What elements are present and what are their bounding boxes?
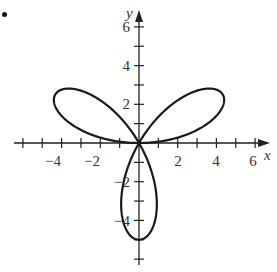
plot-area: −4 −2 2 4 6 6 4 2 −2 −4 x y — [0, 0, 277, 272]
y-tick-label: 2 — [123, 96, 131, 112]
x-tick-label: 4 — [212, 153, 220, 169]
x-tick-label: −4 — [45, 153, 61, 169]
x-axis-label: x — [263, 147, 271, 163]
polar-rose-chart: −4 −2 2 4 6 6 4 2 −2 −4 x y — [0, 0, 277, 272]
y-axis-arrow-icon — [135, 10, 143, 22]
y-tick-label: 6 — [123, 19, 131, 35]
y-axis-label: y — [124, 5, 133, 21]
x-tick-label: 2 — [174, 153, 182, 169]
x-axis-arrow-icon — [258, 139, 270, 147]
x-tick-label: 6 — [249, 153, 257, 169]
x-tick-label: −2 — [84, 153, 100, 169]
y-tick-label: 4 — [123, 58, 131, 74]
y-tick-label: −4 — [114, 213, 130, 229]
y-tick-label: −2 — [114, 174, 130, 190]
